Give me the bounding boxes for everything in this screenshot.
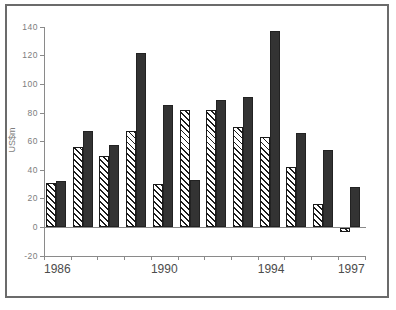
bar-hatched-1996 (313, 204, 323, 227)
y-tick-label: -20 (12, 251, 38, 261)
bar-solid-1995 (296, 133, 306, 227)
bar-hatched-1992 (206, 110, 216, 227)
bar-solid-1996 (323, 150, 333, 227)
bar-hatched-1988 (99, 156, 109, 228)
bar-hatched-1987 (73, 147, 83, 227)
x-tick-label: 1990 (142, 263, 186, 276)
x-tick (151, 257, 152, 260)
x-tick (71, 257, 72, 260)
y-tick (40, 27, 44, 28)
bar-hatched-1995 (286, 167, 296, 227)
x-tick (284, 257, 285, 260)
bar-solid-1993 (243, 97, 253, 227)
bar-hatched-1997 (340, 228, 350, 232)
zero-line (44, 227, 366, 228)
y-tick (40, 113, 44, 114)
bar-solid-1994 (270, 31, 280, 227)
x-tick (365, 257, 366, 260)
bar-solid-1990 (163, 105, 173, 227)
x-tick (204, 257, 205, 260)
chart-figure: US$m 140120100806040200-2019861990199419… (0, 0, 396, 310)
bar-solid-1997 (350, 187, 360, 227)
y-tick-label: 80 (12, 108, 38, 118)
y-tick-label: 40 (12, 165, 38, 175)
bar-solid-1986 (56, 181, 66, 227)
x-tick (124, 257, 125, 260)
bar-hatched-1990 (153, 184, 163, 227)
x-tick-label: 1994 (249, 263, 293, 276)
x-tick (258, 257, 259, 260)
y-tick-label: 120 (12, 50, 38, 60)
bar-solid-1991 (190, 180, 200, 227)
bar-hatched-1993 (233, 127, 243, 227)
bar-hatched-1994 (260, 137, 270, 227)
y-axis-line (44, 27, 45, 257)
y-tick (40, 141, 44, 142)
x-tick (44, 257, 45, 260)
x-tick (311, 257, 312, 260)
bar-hatched-1989 (126, 131, 136, 227)
y-tick (40, 198, 44, 199)
y-tick (40, 227, 44, 228)
bar-solid-1988 (109, 145, 119, 227)
y-tick-label: 0 (12, 222, 38, 232)
x-tick (97, 257, 98, 260)
bar-solid-1992 (216, 100, 226, 227)
x-tick (178, 257, 179, 260)
x-tick-label: 1997 (329, 263, 373, 276)
bar-hatched-1986 (46, 183, 56, 227)
bar-hatched-1991 (180, 110, 190, 227)
x-tick (338, 257, 339, 260)
y-tick-label: 60 (12, 136, 38, 146)
y-tick (40, 84, 44, 85)
bar-solid-1989 (136, 53, 146, 227)
x-tick (231, 257, 232, 260)
y-tick (40, 55, 44, 56)
y-tick (40, 170, 44, 171)
x-tick-label: 1986 (35, 263, 79, 276)
y-tick-label: 100 (12, 79, 38, 89)
y-tick-label: 140 (12, 22, 38, 32)
bar-solid-1987 (83, 131, 93, 227)
y-tick-label: 20 (12, 193, 38, 203)
